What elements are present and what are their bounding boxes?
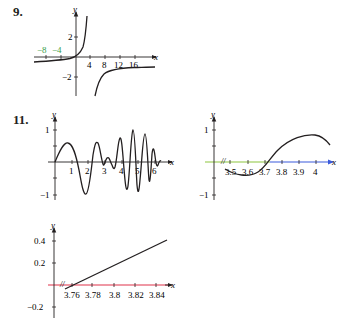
svg-text:x: x xyxy=(170,280,175,290)
svg-text:3.9: 3.9 xyxy=(293,167,305,177)
svg-text:4: 4 xyxy=(87,60,92,70)
chart-ex11a: x y 1 −1 1 2 3 4 5 6 xyxy=(40,109,174,200)
y-axis-label: y xyxy=(72,4,77,14)
svg-text:−2: −2 xyxy=(62,72,72,82)
svg-text:0.4: 0.4 xyxy=(34,236,46,246)
svg-text:3.82: 3.82 xyxy=(128,290,144,300)
svg-text:1: 1 xyxy=(204,125,209,135)
svg-text:2: 2 xyxy=(85,166,90,176)
svg-text:−4: −4 xyxy=(52,45,62,55)
svg-text:x: x xyxy=(169,157,174,167)
svg-text:3.84: 3.84 xyxy=(149,290,165,300)
plots-canvas: x y −8 −4 4 8 12 16 2 −2 x y 1 xyxy=(0,0,346,322)
svg-text:2: 2 xyxy=(68,32,73,42)
axis-break: // xyxy=(59,280,65,289)
svg-text:x: x xyxy=(331,157,336,167)
svg-text:y: y xyxy=(210,109,215,119)
chart-ex9: x y −8 −4 4 8 12 16 2 −2 xyxy=(34,4,158,96)
chart-ex11c: x y // 0.4 0.2 −0.2 3.76 3.78 3.8 3.82 3… xyxy=(27,220,175,318)
svg-text:3.78: 3.78 xyxy=(85,290,101,300)
svg-text:8: 8 xyxy=(102,60,107,70)
axis-break: // xyxy=(220,157,226,166)
svg-text:1: 1 xyxy=(45,125,50,135)
svg-text:3: 3 xyxy=(102,166,107,176)
svg-text:−1: −1 xyxy=(40,190,50,200)
x-axis-label: x xyxy=(153,52,158,62)
svg-text:6: 6 xyxy=(152,166,157,176)
svg-text:3.76: 3.76 xyxy=(64,290,80,300)
svg-text:y: y xyxy=(51,109,56,119)
svg-text:0.2: 0.2 xyxy=(34,258,45,268)
curve-f xyxy=(65,240,167,289)
svg-text:16: 16 xyxy=(129,60,139,70)
svg-text:y: y xyxy=(50,220,55,230)
svg-text:4: 4 xyxy=(313,167,318,177)
svg-text:3.8: 3.8 xyxy=(276,167,288,177)
curve-right-branch xyxy=(95,67,155,96)
svg-text:3.7: 3.7 xyxy=(259,167,271,177)
svg-text:3.8: 3.8 xyxy=(109,290,121,300)
svg-text:−0.2: −0.2 xyxy=(27,302,43,312)
chart-ex11b: x y // 1 −1 3.5 3.6 3.7 3.8 3.9 4 xyxy=(199,109,336,200)
curve-left-branch xyxy=(34,16,87,62)
svg-text:−8: −8 xyxy=(37,45,47,55)
svg-text:1: 1 xyxy=(69,166,74,176)
svg-text:−1: −1 xyxy=(199,190,209,200)
